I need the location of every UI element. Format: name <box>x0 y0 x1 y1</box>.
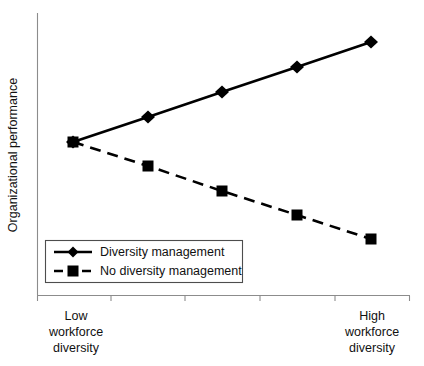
line-chart: Diversity management No diversity manage… <box>0 0 424 366</box>
x-axis-label-right-line-1: workforce <box>344 325 399 339</box>
legend-label-no-diversity-management: No diversity management <box>100 264 242 278</box>
data-point-diversity-2 <box>215 86 229 99</box>
x-axis-label-left-line-2: diversity <box>53 341 100 355</box>
y-axis-label: Organizational performance <box>6 78 20 232</box>
square-marker-icon <box>68 266 79 277</box>
x-axis-label-right: High workforce diversity <box>344 309 399 355</box>
chart-legend: Diversity management No diversity manage… <box>46 241 243 283</box>
x-axis-label-left-line-1: workforce <box>48 325 103 339</box>
data-point-diversity-1 <box>141 111 155 124</box>
data-point-no-diversity-3 <box>292 210 303 221</box>
legend-label-diversity-management: Diversity management <box>100 245 225 259</box>
x-axis-label-right-line-0: High <box>359 309 385 323</box>
x-axis-label-left-line-0: Low <box>65 309 89 323</box>
data-point-diversity-3 <box>290 61 304 74</box>
data-point-no-diversity-2 <box>217 186 228 197</box>
x-axis-label-right-line-2: diversity <box>349 341 396 355</box>
chart-container: Diversity management No diversity manage… <box>0 0 424 366</box>
data-point-no-diversity-1 <box>143 161 154 172</box>
x-axis-label-left: Low workforce diversity <box>48 309 103 355</box>
data-point-diversity-4 <box>364 36 378 49</box>
data-point-no-diversity-4 <box>366 234 377 245</box>
